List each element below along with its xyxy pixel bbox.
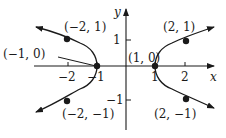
label-point-neg1-0: (−1, 0) <box>3 47 45 61</box>
point-neg1-0 <box>94 63 100 69</box>
y-axis-label: y <box>113 5 121 19</box>
point-2-neg1 <box>183 96 189 102</box>
point-neg2-neg1 <box>64 98 70 104</box>
x-tick-label-2: 2 <box>181 70 189 84</box>
x-tick-label-neg2: −2 <box>58 70 76 84</box>
label-point-neg2-1: (−2, 1) <box>64 20 106 34</box>
x-tick-label-1: 1 <box>151 70 159 84</box>
y-tick-label-neg1: −1 <box>106 93 124 107</box>
x-tick-label-neg1: −1 <box>87 70 105 84</box>
leader-line-neg1-0 <box>58 57 96 66</box>
hyperbola-graph: (−2, 1) (−1, 0) (−2, −1) (2, 1) (1, 0) (… <box>0 0 226 138</box>
point-2-1 <box>183 38 189 44</box>
label-point-1-0: (1, 0) <box>128 51 160 65</box>
label-point-2-1: (2, 1) <box>163 20 195 34</box>
label-point-2-neg1: (2, −1) <box>154 107 196 121</box>
x-axis-label: x <box>210 70 217 84</box>
point-neg2-1 <box>64 36 70 42</box>
label-point-neg2-neg1: (−2, −1) <box>62 107 114 121</box>
y-tick-label-1: 1 <box>113 33 121 47</box>
